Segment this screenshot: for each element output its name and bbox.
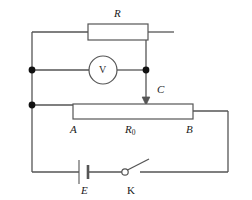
rheostat-body xyxy=(73,104,193,119)
circuit-schematic-svg xyxy=(0,0,252,200)
label-battery-E: E xyxy=(81,185,88,196)
label-slider-C: C xyxy=(157,84,164,95)
voltmeter-branch xyxy=(32,56,146,84)
resistor-body xyxy=(88,24,148,40)
junction-dot-right xyxy=(143,67,150,74)
label-terminal-A: A xyxy=(70,124,77,135)
junction-dot-lower-left xyxy=(29,102,36,109)
label-rheostat-R0-subscript: 0 xyxy=(132,128,136,137)
source-branch xyxy=(32,159,228,184)
label-voltmeter-V: V xyxy=(99,65,106,75)
label-switch-K: K xyxy=(127,185,135,196)
slider-tap xyxy=(142,70,150,105)
label-terminal-B: B xyxy=(186,124,193,135)
junction-dot-upper-left xyxy=(29,67,36,74)
label-rheostat-R0: R0 xyxy=(125,124,135,136)
label-rheostat-R0-base: R xyxy=(125,123,132,135)
switch-pivot-icon[interactable] xyxy=(122,169,128,175)
rheostat-branch xyxy=(32,104,228,119)
circuit-diagram-canvas: R V C A R0 B E K xyxy=(0,0,252,200)
switch-lever-icon[interactable] xyxy=(128,159,150,170)
label-resistor-R: R xyxy=(114,8,121,19)
